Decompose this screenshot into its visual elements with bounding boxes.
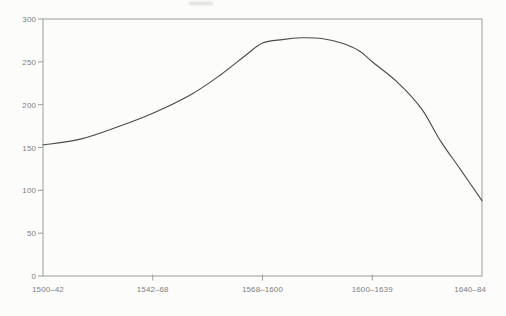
- x-axis-tick-label: 1568–1600: [242, 285, 283, 294]
- y-axis-tick-label: 300: [22, 15, 36, 24]
- y-axis-tick-label: 100: [22, 186, 36, 195]
- y-axis-tick-label: 200: [22, 101, 36, 110]
- x-axis-tick-label: 1600–1639: [352, 285, 393, 294]
- plot-frame: [43, 19, 482, 276]
- y-axis-tick-label: 150: [22, 144, 36, 153]
- scan-artifact-smudge: [189, 2, 213, 5]
- y-axis-tick-label: 250: [22, 58, 36, 67]
- x-axis-tick-label: 1500–42: [32, 285, 64, 294]
- x-axis-tick-label: 1640–84: [454, 285, 486, 294]
- y-axis-tick-label: 0: [31, 272, 36, 281]
- line-chart: 0501001502002503001500–421542–681568–160…: [0, 0, 506, 316]
- x-axis-tick-label: 1542–68: [137, 285, 169, 294]
- y-axis-tick-label: 50: [27, 229, 37, 238]
- chart-figure: 0501001502002503001500–421542–681568–160…: [0, 0, 506, 316]
- data-curve: [43, 38, 482, 201]
